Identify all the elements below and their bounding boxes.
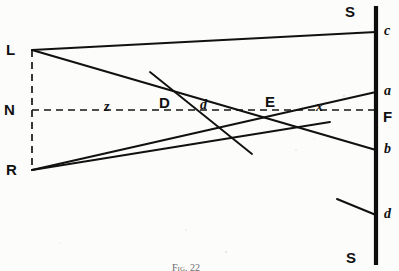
label-screen-top: S <box>345 4 355 19</box>
label-point-E: E <box>265 94 275 109</box>
label-distance-z: z <box>104 100 109 114</box>
figure-canvas: L N R z D d E x S S c a F b d Fig. 22 <box>0 0 399 271</box>
label-point-D: D <box>159 95 170 110</box>
label-point-d-small: d <box>200 98 207 112</box>
segment-to-screen-point-d <box>337 199 376 215</box>
label-screen-point-c: c <box>384 24 390 38</box>
ray-crossing-down-right <box>150 72 252 154</box>
label-screen-bottom: S <box>346 250 356 265</box>
label-source-left: L <box>6 42 15 57</box>
diagram-svg-wrapper <box>0 0 399 271</box>
label-screen-point-a: a <box>384 84 391 98</box>
label-screen-point-F: F <box>383 109 392 124</box>
label-source-right: R <box>6 162 17 177</box>
label-screen-point-d: d <box>384 207 391 221</box>
label-distance-x: x <box>316 100 323 114</box>
label-screen-point-b: b <box>384 142 391 156</box>
ray-L-to-c <box>32 32 376 50</box>
figure-caption: Fig. 22 <box>172 262 200 271</box>
ray-R-to-E-upper <box>32 122 330 170</box>
label-node-center: N <box>4 102 15 117</box>
ray-diagram-svg <box>0 0 399 271</box>
ray-lines <box>32 32 376 215</box>
